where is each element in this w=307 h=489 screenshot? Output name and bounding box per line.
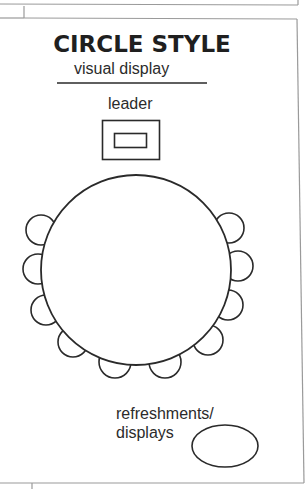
leader-inner-rect (115, 134, 147, 148)
refreshments-label-line1: refreshments/ (116, 404, 214, 423)
leader-station-icon (103, 121, 160, 160)
diagram-title: CIRCLE STYLE (0, 30, 284, 58)
refreshments-label-line2: displays (116, 423, 214, 442)
leader-label: leader (108, 94, 152, 114)
panel-right-border (297, 19, 304, 483)
top-border-line (0, 4, 298, 5)
diagram-subtitle: visual display (74, 59, 169, 79)
refreshments-label: refreshments/ displays (116, 404, 214, 442)
panel-top-border (24, 18, 297, 19)
round-table (41, 175, 231, 365)
